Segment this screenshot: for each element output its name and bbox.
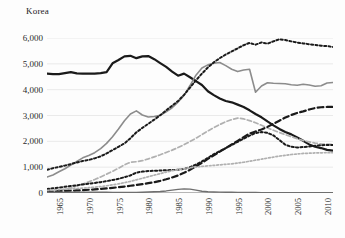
x-axis-tick-label: 2010 bbox=[323, 198, 333, 215]
x-axis-tick-label: 1985 bbox=[174, 198, 184, 215]
y-axis-tick-label: 2,000 bbox=[7, 136, 43, 146]
x-axis-tick-label: 1970 bbox=[85, 198, 95, 215]
x-axis-tick-label: 1980 bbox=[144, 198, 154, 215]
line-chart-svg bbox=[47, 38, 333, 193]
y-axis-tick-label: 0 bbox=[7, 188, 43, 198]
y-axis-tick-label: 4,000 bbox=[7, 85, 43, 95]
y-axis-labels: 01,0002,0003,0004,0005,0006,000 bbox=[5, 38, 43, 193]
x-axis-tick-label: 1990 bbox=[204, 198, 214, 215]
plot-area bbox=[47, 38, 333, 193]
y-axis-tick-label: 3,000 bbox=[7, 111, 43, 121]
x-axis-labels: 1965197019751980198519901995200020052010 bbox=[47, 198, 333, 236]
series-line-6 bbox=[47, 107, 333, 192]
x-axis-tick-label: 1965 bbox=[55, 198, 65, 215]
x-axis-tick-label: 1975 bbox=[115, 198, 125, 215]
series-line-8 bbox=[47, 189, 333, 193]
x-axis-tick-label: 2005 bbox=[293, 198, 303, 215]
y-axis-tick-label: 1,000 bbox=[7, 162, 43, 172]
x-axis-tick-label: 2000 bbox=[263, 198, 273, 215]
y-axis-tick-label: 6,000 bbox=[7, 33, 43, 43]
y-axis-tick-label: 5,000 bbox=[7, 59, 43, 69]
series-line-7 bbox=[47, 153, 333, 191]
chart-container: Korea 01,0002,0003,0004,0005,0006,000 19… bbox=[0, 0, 345, 238]
x-axis-tick-label: 1995 bbox=[234, 198, 244, 215]
series-line-3 bbox=[47, 39, 333, 169]
chart-title: Korea bbox=[26, 6, 49, 16]
